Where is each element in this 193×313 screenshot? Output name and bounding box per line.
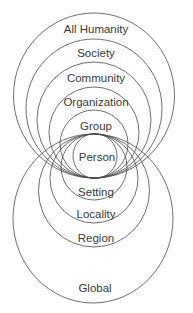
diagram-canvas: All Humanity Society Community Organizat…: [0, 0, 193, 313]
label-society: Society: [77, 47, 115, 59]
label-group: Group: [80, 120, 112, 132]
label-person: Person: [79, 151, 115, 163]
label-locality: Locality: [77, 208, 116, 220]
label-setting: Setting: [78, 186, 114, 198]
label-region: Region: [78, 232, 114, 244]
label-organization: Organization: [63, 96, 128, 108]
label-global: Global: [78, 282, 111, 294]
label-community: Community: [67, 72, 125, 84]
label-all-humanity: All Humanity: [64, 23, 129, 35]
nested-levels-diagram: All Humanity Society Community Organizat…: [0, 0, 193, 313]
